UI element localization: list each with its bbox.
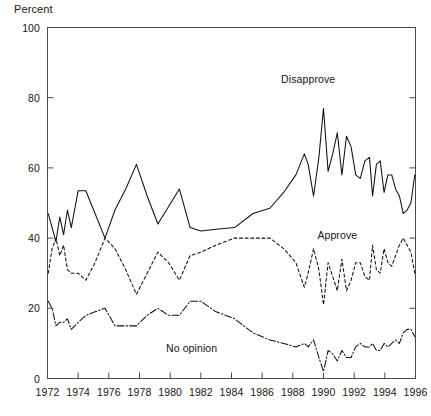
x-tick-label: 1976 <box>97 386 121 398</box>
series-line-no-opinion <box>48 301 414 371</box>
tick-mark-layer <box>48 98 416 379</box>
plot-frame <box>48 28 416 379</box>
series-line-approve <box>48 238 414 305</box>
series-annotation-approve: Approve <box>317 229 357 241</box>
series-annotation-disapprove: Disapprove <box>281 73 335 85</box>
y-tick-label: 80 <box>0 92 40 104</box>
x-tick-label: 1980 <box>158 386 182 398</box>
x-tick-label: 1988 <box>281 386 305 398</box>
data-series-layer <box>48 108 414 371</box>
x-tick-label: 1984 <box>220 386 244 398</box>
x-tick-label: 1996 <box>404 386 428 398</box>
series-line-disapprove <box>48 108 414 241</box>
x-tick-label: 1978 <box>128 386 152 398</box>
y-tick-label: 60 <box>0 162 40 174</box>
series-annotation-no-opinion: No opinion <box>166 342 217 354</box>
x-tick-label: 1994 <box>373 386 397 398</box>
y-tick-label: 100 <box>0 22 40 34</box>
x-tick-label: 1972 <box>36 386 60 398</box>
x-tick-label: 1974 <box>66 386 90 398</box>
x-tick-label: 1986 <box>250 386 274 398</box>
x-tick-label: 1992 <box>342 386 366 398</box>
y-tick-label: 40 <box>0 232 40 244</box>
x-tick-label: 1982 <box>189 386 213 398</box>
y-tick-label: 0 <box>0 373 40 385</box>
y-tick-label: 20 <box>0 302 40 314</box>
x-tick-label: 1990 <box>312 386 336 398</box>
poll-trend-line-chart: Percent 020406080100 1972197419761978198… <box>0 0 431 416</box>
